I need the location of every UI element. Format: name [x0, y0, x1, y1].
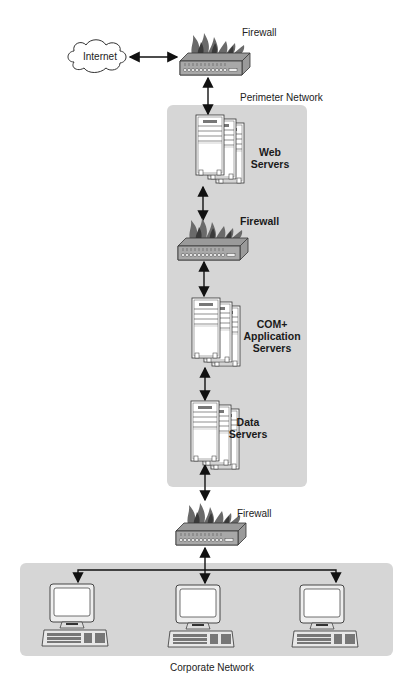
firewall-top-label: Firewall [242, 27, 276, 38]
diagram-canvas [0, 0, 411, 690]
firewall-icon-middle [178, 218, 248, 260]
internet-label: Internet [83, 51, 117, 62]
app-servers-label: COM+ Application Servers [240, 318, 304, 354]
data-servers-label-line2: Servers [228, 428, 268, 440]
desktop-computer-icon-1 [42, 584, 108, 646]
firewall-bottom-label: Firewall [237, 508, 271, 519]
app-servers-label-line1: COM+ [240, 318, 304, 330]
web-servers-label: Web Servers [250, 146, 290, 170]
web-servers-icon [196, 115, 244, 183]
desktop-computer-icon-3 [292, 585, 358, 647]
firewall-icon-bottom [176, 503, 246, 545]
desktop-computer-icon-2 [168, 585, 234, 647]
corporate-network-label: Corporate Network [170, 662, 254, 673]
corporate-branch-line [78, 570, 336, 582]
web-servers-label-line1: Web [250, 146, 290, 158]
perimeter-network-label: Perimeter Network [240, 92, 323, 103]
app-servers-label-line3: Servers [240, 342, 304, 354]
data-servers-label-line1: Data [228, 416, 268, 428]
app-servers-label-line2: Application [240, 330, 304, 342]
web-servers-label-line2: Servers [250, 158, 290, 170]
app-servers-icon [192, 298, 240, 366]
firewall-icon-top [180, 33, 250, 75]
data-servers-label: Data Servers [228, 416, 268, 440]
firewall-middle-label: Firewall [240, 215, 279, 227]
